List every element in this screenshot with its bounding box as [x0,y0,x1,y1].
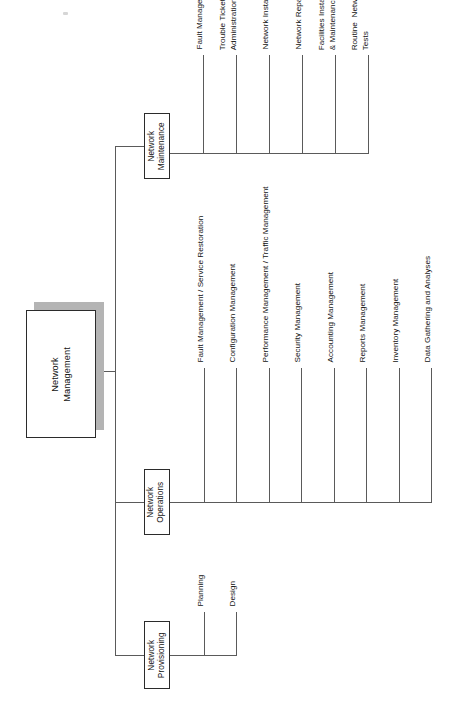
leaf-nm-6-label: Routine NetworkTests [350,0,371,50]
branch-connector-network-operations [115,502,145,503]
branch-connector-network-maintenance [115,146,145,147]
leaf-no-2-label: Configuration Management [228,264,239,363]
nm-leaf-stalk-6 [368,55,369,154]
leaf-nm-2-label: Trouble TicketAdministration [218,0,239,50]
leaf-no-7-label: Inventory Management [391,279,402,363]
no-leaf-stalk-5 [334,368,335,503]
leaf-np-1-label: Planning [196,575,207,607]
np-spine [170,655,236,656]
node-network-provisioning[interactable]: NetworkProvisioning [144,621,170,689]
leaf-nm-4-label: Network Repairs [294,0,305,50]
leaf-no-3-label: Performance Management / Traffic Managem… [261,187,272,363]
no-leaf-stalk-8 [431,368,432,503]
no-leaf-stalk-6 [366,368,367,503]
no-leaf-stalk-3 [269,368,270,503]
no-leaf-stalk-7 [399,368,400,503]
leaf-no-1-label: Fault Management / Service Restoration [196,216,207,363]
leaf-no-4-label: Security Management [293,283,304,363]
leaf-nm-5-label: Facilities Installation& Maintenance [317,0,338,50]
node-network-maintenance-label: NetworkMaintenance [147,122,168,170]
leaf-no-8-label: Data Gathering and Analyses [423,256,434,363]
node-network-provisioning-label: NetworkProvisioning [147,632,168,678]
nm-leaf-stalk-3 [269,55,270,154]
nm-leaf-stalk-5 [335,55,336,154]
np-leaf-stalk-2 [236,612,237,656]
node-network-operations[interactable]: NetworkOperations [144,469,170,535]
scan-artifact [63,12,68,15]
root-node-label: NetworkManagement [49,347,72,402]
np-leaf-stalk-1 [204,612,205,656]
leaf-nm-3-label: Network Installation [261,0,272,50]
root-node-network-management[interactable]: NetworkManagement [26,310,96,438]
node-network-maintenance[interactable]: NetworkMaintenance [144,113,170,179]
nm-leaf-stalk-2 [236,55,237,154]
diagram-canvas: NetworkManagement NetworkMaintenance Fau… [0,0,453,709]
leaf-nm-1-label: Fault Management [195,0,206,50]
trunk-line [115,146,116,656]
no-leaf-stalk-2 [236,368,237,503]
no-leaf-stalk-4 [301,368,302,503]
leaf-no-6-label: Reports Management [358,284,369,363]
nm-leaf-stalk-1 [203,55,204,154]
node-network-operations-label: NetworkOperations [147,481,168,522]
leaf-no-5-label: Accounting Management [326,272,337,363]
no-leaf-stalk-1 [204,368,205,503]
leaf-np-2-label: Design [228,582,239,608]
branch-connector-network-provisioning [115,655,145,656]
nm-leaf-stalk-4 [302,55,303,154]
